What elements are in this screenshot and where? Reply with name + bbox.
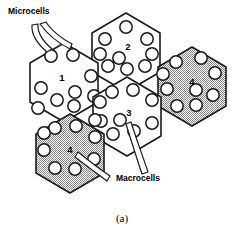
microcell — [89, 114, 101, 126]
microcell — [207, 89, 219, 101]
microcell — [190, 99, 202, 111]
cell-1-group: 1 — [30, 43, 100, 122]
microcell — [51, 94, 63, 106]
microcell — [94, 48, 106, 60]
microcell — [161, 83, 173, 95]
microcells-callout-arrows: Microcells — [8, 6, 72, 52]
microcell — [32, 102, 44, 114]
microcell — [38, 144, 50, 156]
microcell — [89, 131, 101, 143]
cell-number-2: 2 — [125, 41, 130, 52]
microcell — [68, 100, 80, 112]
microcell — [121, 63, 133, 75]
microcell — [99, 33, 111, 45]
microcell — [106, 86, 118, 98]
microcell — [141, 33, 153, 45]
figure-caption: (a) — [116, 212, 129, 225]
microcell — [70, 120, 82, 132]
cell-4-right-group: 4 — [157, 47, 226, 126]
microcell — [146, 117, 158, 129]
microcell — [69, 163, 81, 175]
cellular-network-figure: 2 1 4 — [0, 0, 245, 236]
microcell — [171, 100, 183, 112]
cell-4-bottom-left-group: 4 — [36, 114, 104, 193]
microcell — [69, 86, 81, 98]
cell-number-3: 3 — [126, 107, 131, 118]
microcell — [67, 49, 79, 61]
microcell — [157, 68, 169, 80]
macrocells-label: Macrocells — [116, 173, 160, 183]
microcell — [113, 52, 125, 64]
microcell — [209, 67, 221, 79]
microcells-label: Microcells — [8, 6, 50, 16]
microcell — [139, 60, 151, 72]
microcell — [114, 114, 126, 126]
microcell — [94, 96, 106, 108]
microcell — [127, 84, 139, 96]
microcell — [38, 127, 50, 139]
cell-number-1: 1 — [59, 72, 65, 83]
hexagon-cell-diagram: 2 1 4 — [0, 0, 245, 236]
cell-number-4-bottom-left: 4 — [67, 144, 73, 155]
cell-number-4-right: 4 — [189, 76, 195, 87]
microcell — [170, 56, 182, 68]
microcell — [85, 70, 97, 82]
microcell — [107, 128, 119, 140]
microcell — [146, 94, 158, 106]
microcell — [35, 82, 47, 94]
microcell — [120, 21, 132, 33]
microcell — [49, 162, 61, 174]
microcell — [146, 48, 158, 60]
microcell — [195, 52, 207, 64]
microcell — [102, 60, 114, 72]
